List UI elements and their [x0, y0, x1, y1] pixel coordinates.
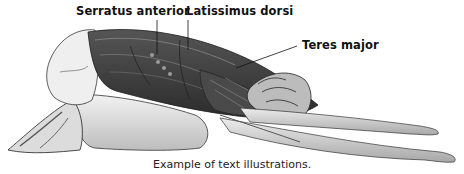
arms: [220, 108, 455, 162]
label-latissimus-dorsi: Latissimus dorsi: [186, 4, 293, 18]
anatomy-illustration: [0, 0, 464, 174]
label-teres-major: Teres major: [302, 38, 379, 52]
figure-caption: Example of text illustrations.: [153, 158, 311, 171]
label-serratus-anterior: Serratus anterior: [76, 4, 190, 18]
